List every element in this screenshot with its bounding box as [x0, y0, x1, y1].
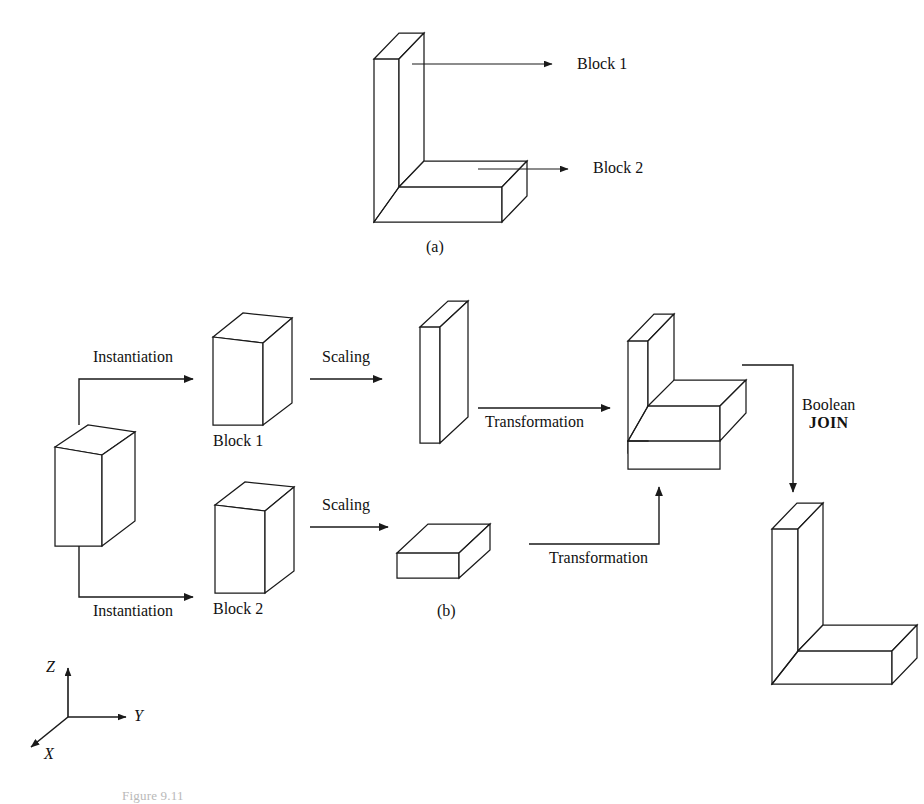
axis-label-x: X [44, 745, 54, 763]
operation-label-instantiation-bottom: Instantiation [93, 602, 173, 620]
subfigure-label-b: (b) [437, 602, 456, 620]
operation-label-transformation-top: Transformation [485, 413, 584, 431]
operation-label-scaling-bottom: Scaling [322, 496, 370, 514]
block1-front-face [213, 337, 263, 425]
callout-label-block1: Block 1 [577, 55, 627, 73]
boolean-label-line1: Boolean [802, 396, 855, 414]
coordinate-axes-triad [31, 668, 126, 747]
operation-label-instantiation-top: Instantiation [93, 348, 173, 366]
arrow-instantiation-bottom [79, 546, 193, 597]
axis-label-y: Y [134, 707, 143, 725]
scaled-plate-front-face [420, 327, 440, 443]
scaled-plate-right-face [440, 301, 468, 443]
callout-label-block2: Block 2 [593, 159, 643, 177]
operation-label-scaling-top: Scaling [322, 348, 370, 366]
figure-caption: Figure 9.11 [122, 789, 184, 804]
operation-label-transformation-bottom: Transformation [549, 549, 648, 567]
block2-cube [215, 482, 294, 593]
block2-front-face [215, 505, 265, 593]
source-primitive-cube [55, 425, 135, 546]
arrow-instantiation-top [79, 379, 193, 425]
scaled-slab-front-face [397, 553, 459, 578]
scaled-slab-flat [397, 524, 490, 578]
arrow-boolean-join [742, 365, 793, 492]
boolean-label-line2: JOIN [802, 414, 855, 432]
axis-x-line [31, 717, 68, 747]
block1-cube [213, 313, 292, 425]
part-a-l-bracket-solid [374, 33, 527, 222]
final-joined-l-bracket [772, 503, 917, 684]
arrow-transformation-bottom [529, 487, 659, 544]
block-name-label-block1: Block 1 [213, 432, 263, 450]
block-name-label-block2: Block 2 [213, 600, 263, 618]
assembled-blocks-prejoin [628, 314, 746, 469]
operation-label-boolean-join: Boolean JOIN [802, 396, 855, 432]
assembly-slab-bottom-band [628, 441, 720, 469]
plate-front-face [399, 33, 424, 187]
cube-front-face [55, 447, 102, 546]
axis-label-z: Z [46, 658, 55, 676]
scaled-plate-vertical [420, 301, 468, 443]
subfigure-label-a: (a) [426, 238, 444, 256]
